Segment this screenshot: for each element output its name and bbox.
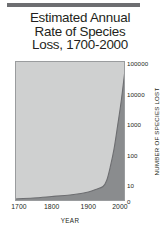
chart-title-line-1: Estimated Annual (4, 11, 156, 25)
chart-title: Estimated Annual Rate of Species Loss, 1… (4, 11, 156, 52)
y-axis-title-text: NUMBER OF SPECIES LOST (154, 87, 161, 175)
x-tick-label: 1700 (11, 203, 27, 210)
x-tick-label: 2000 (112, 203, 128, 210)
x-tick-label: 1900 (81, 203, 97, 210)
y-tick-label: 100000 (127, 60, 148, 67)
y-tick-label: 1000 (127, 121, 141, 128)
chart-figure: Estimated Annual Rate of Species Loss, 1… (0, 0, 167, 237)
top-rule-divider (7, 3, 140, 7)
x-axis-tick-labels: 1700180019002000 (0, 203, 145, 215)
y-tick-label: 100 (127, 151, 138, 158)
y-axis-title: NUMBER OF SPECIES LOST (150, 61, 164, 201)
species-loss-area-chart (15, 61, 125, 201)
y-tick-label: 10 (127, 182, 134, 189)
chart-title-line-2: Rate of Species (4, 25, 156, 39)
chart-title-line-3: Loss, 1700-2000 (4, 38, 156, 52)
x-tick-label: 1800 (44, 203, 60, 210)
y-tick-label: 10000 (127, 90, 145, 97)
plot-area (15, 61, 125, 201)
x-axis-title: YEAR (15, 217, 125, 224)
